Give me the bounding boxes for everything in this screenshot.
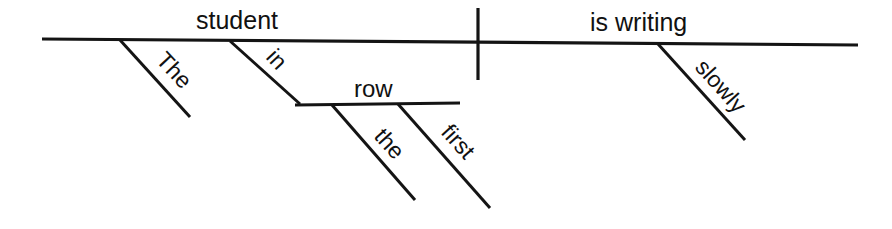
sentence-diagram-canvas: student is writing row The in the first … bbox=[0, 0, 892, 229]
branch-first-line bbox=[398, 104, 490, 208]
label-subject-article: The bbox=[151, 47, 197, 94]
label-subject: student bbox=[196, 6, 278, 34]
label-verb: is writing bbox=[590, 8, 687, 36]
branch-in-line bbox=[230, 41, 300, 104]
label-object-article: the bbox=[369, 123, 410, 164]
sentence-diagram: student is writing row The in the first … bbox=[0, 0, 892, 229]
label-preposition: in bbox=[261, 44, 292, 75]
main-baseline bbox=[42, 39, 858, 45]
label-prep-object: row bbox=[354, 75, 393, 102]
label-verb-adverb: slowly bbox=[690, 54, 752, 118]
label-object-adjective: first bbox=[436, 119, 481, 164]
prepositional-object-line bbox=[295, 103, 460, 105]
